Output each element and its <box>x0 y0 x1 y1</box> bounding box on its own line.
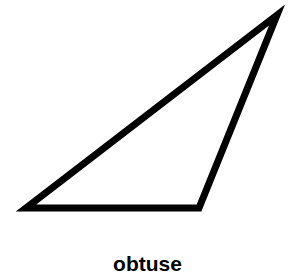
triangle-figure: obtuse <box>0 0 295 279</box>
triangle-caption: obtuse <box>0 252 295 276</box>
obtuse-triangle-icon <box>0 0 295 279</box>
